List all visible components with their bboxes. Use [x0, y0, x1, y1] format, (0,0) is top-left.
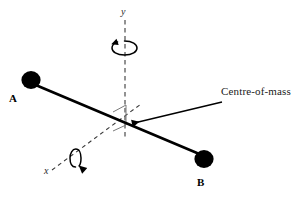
centre-of-mass-label: Centre-of-mass: [221, 86, 291, 97]
mass-b-label: B: [197, 177, 204, 188]
mass-b-sphere: [194, 150, 213, 168]
figure-canvas: y x A B Centre-of-mass: [0, 0, 293, 198]
x-axis-label: x: [44, 166, 48, 176]
y-axis-label: y: [121, 7, 125, 17]
mass-a-sphere: [21, 71, 40, 89]
mass-a-label: A: [9, 93, 17, 104]
